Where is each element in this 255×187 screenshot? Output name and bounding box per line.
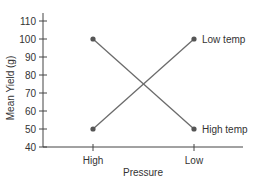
x-axis-title: Pressure bbox=[123, 167, 163, 178]
data-point bbox=[90, 126, 95, 131]
y-tick-label: 70 bbox=[25, 88, 37, 99]
x-tick-label: Low bbox=[185, 155, 204, 166]
y-axis-title: Mean Yield (g) bbox=[5, 56, 16, 120]
y-tick-label: 40 bbox=[25, 142, 37, 153]
series-label: Low temp bbox=[202, 34, 246, 45]
data-point bbox=[90, 36, 95, 41]
data-point bbox=[191, 126, 196, 131]
x-tick-label: High bbox=[83, 155, 104, 166]
data-point bbox=[191, 36, 196, 41]
y-tick-label: 80 bbox=[25, 70, 37, 81]
y-tick-label: 60 bbox=[25, 106, 37, 117]
interaction-line-chart: 405060708090100110HighLowPressureMean Yi… bbox=[0, 0, 255, 187]
y-tick-label: 100 bbox=[19, 34, 36, 45]
y-tick-label: 110 bbox=[20, 16, 36, 27]
series-label: High temp bbox=[202, 124, 248, 135]
y-tick-label: 50 bbox=[25, 124, 37, 135]
y-tick-label: 90 bbox=[25, 52, 37, 63]
